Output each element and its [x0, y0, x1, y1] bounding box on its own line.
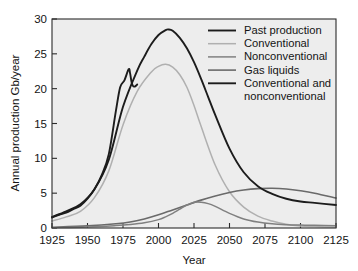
y-tick-label: 10 — [34, 152, 47, 164]
x-tick-label: 2000 — [146, 234, 172, 246]
x-tick-label: 2100 — [288, 234, 314, 246]
legend-label-continued: nonconventional — [244, 90, 326, 102]
legend-label: Conventional — [244, 37, 309, 49]
legend-label: Conventional and — [244, 77, 331, 89]
x-tick-label: 1975 — [110, 234, 136, 246]
y-tick-label: 0 — [41, 222, 47, 234]
x-tick-label: 2025 — [181, 234, 207, 246]
y-axis-title: Annual production Gb/year — [9, 54, 21, 191]
y-tick-label: 20 — [34, 83, 47, 95]
y-tick-label: 5 — [41, 187, 47, 199]
x-axis-title: Year — [182, 254, 205, 266]
y-tick-label: 25 — [34, 48, 47, 60]
y-tick-label: 15 — [34, 118, 47, 130]
x-tick-label: 2075 — [252, 234, 278, 246]
x-tick-label: 1925 — [39, 234, 65, 246]
x-tick-label: 1950 — [75, 234, 101, 246]
legend-label: Nonconventional — [244, 50, 327, 62]
legend-label: Past production — [244, 24, 322, 36]
y-tick-label: 30 — [34, 13, 47, 25]
legend-label: Gas liquids — [244, 64, 300, 76]
chart-canvas: 051015202530 192519501975200020252050207… — [0, 0, 358, 271]
x-tick-label: 2125 — [323, 234, 349, 246]
x-tick-label: 2050 — [217, 234, 243, 246]
chart-figure: 051015202530 192519501975200020252050207… — [0, 0, 358, 271]
